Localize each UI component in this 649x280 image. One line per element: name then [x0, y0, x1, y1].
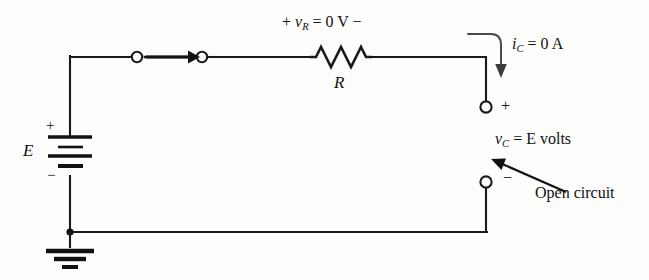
resistor-voltage-minus-sign: −	[353, 13, 362, 30]
open-terminal-bottom[interactable]	[480, 176, 491, 187]
terminal-minus-sign: −	[503, 170, 512, 186]
source-minus-sign: −	[47, 168, 55, 183]
capacitor-voltage-subscript: C	[502, 138, 509, 149]
voltage-source-battery	[48, 137, 92, 166]
resistor-voltage-plus-sign: +	[282, 13, 291, 30]
resistor-voltage-value: = 0 V	[313, 13, 349, 30]
source-plus-sign: +	[46, 118, 54, 133]
current-value: = 0 A	[528, 35, 564, 52]
capacitor-voltage-label: vC = E volts	[495, 131, 571, 150]
terminal-plus-sign: +	[501, 98, 510, 114]
capacitor-voltage-value: = E volts	[513, 130, 571, 147]
current-subscript: C	[516, 43, 523, 54]
voltage-source-label: E	[23, 142, 33, 159]
ground-symbol	[46, 228, 94, 267]
switch-node-left[interactable]	[132, 52, 142, 62]
resistor-voltage-subscript: R	[302, 21, 308, 32]
capacitor-current-label: iC = 0 A	[512, 36, 563, 55]
circuit-diagram: + vR = 0 V − R iC = 0 A vC = E volts Ope…	[0, 0, 649, 280]
open-terminal-top[interactable]	[480, 101, 491, 112]
resistor-symbol	[311, 47, 371, 67]
resistor-label: R	[334, 74, 344, 91]
open-circuit-annotation: Open circuit	[535, 185, 615, 201]
current-direction-arrow	[146, 51, 200, 64]
resistor-voltage-label: + vR = 0 V −	[282, 14, 362, 33]
